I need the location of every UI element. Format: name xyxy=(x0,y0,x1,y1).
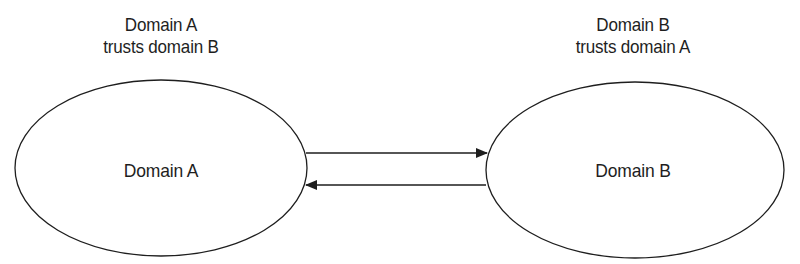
domain-a-label: Domain A xyxy=(69,160,253,182)
domain-a-caption-line2: trusts domain B xyxy=(51,36,272,58)
domain-a-caption: Domain A trusts domain B xyxy=(51,14,272,58)
domain-b-caption-line1: Domain B xyxy=(523,14,744,36)
domain-b-label: Domain B xyxy=(541,160,725,182)
domain-a-caption-line1: Domain A xyxy=(51,14,272,36)
domain-b-caption-line2: trusts domain A xyxy=(523,36,744,58)
trust-diagram: Domain A trusts domain B Domain B trusts… xyxy=(0,0,800,264)
domain-b-caption: Domain B trusts domain A xyxy=(523,14,744,58)
